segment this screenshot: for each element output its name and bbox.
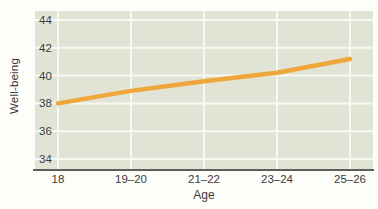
y-tick-label: 34 bbox=[39, 152, 61, 166]
x-tick-label: 25–26 bbox=[320, 172, 378, 186]
wellbeing-age-chart: 444240383634 1819–2021–2223–2425–26 Well… bbox=[0, 0, 378, 209]
x-axis-title: Age bbox=[174, 188, 234, 202]
y-tick-label: 36 bbox=[39, 124, 61, 138]
y-tick-label: 38 bbox=[39, 96, 61, 110]
y-tick-label: 42 bbox=[39, 41, 61, 55]
x-tick-label: 23–24 bbox=[247, 172, 307, 186]
x-tick-label: 18 bbox=[28, 172, 88, 186]
x-tick-label: 19–20 bbox=[101, 172, 161, 186]
x-tick-label: 21–22 bbox=[174, 172, 234, 186]
y-axis-title: Well-being bbox=[8, 58, 20, 114]
y-tick-label: 44 bbox=[39, 13, 61, 27]
y-tick-label: 40 bbox=[39, 69, 61, 83]
